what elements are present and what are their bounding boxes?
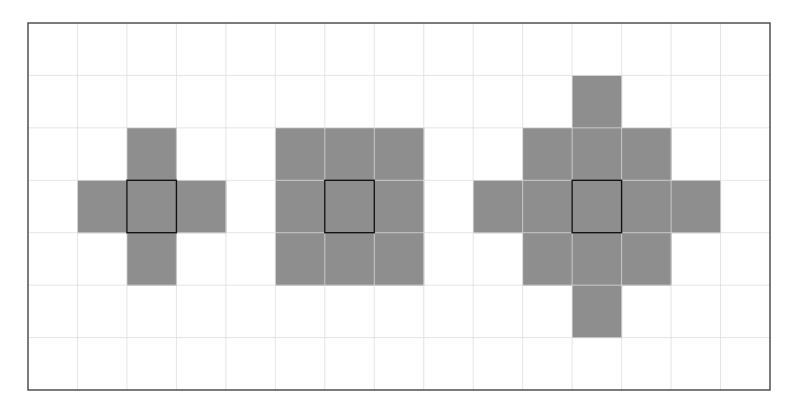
- filled-cell: [127, 180, 177, 233]
- filled-cell: [622, 128, 672, 181]
- filled-cell: [572, 128, 622, 181]
- filled-cell: [523, 233, 573, 286]
- filled-cell: [523, 180, 573, 233]
- filled-cell: [572, 285, 622, 338]
- filled-cell: [473, 180, 523, 233]
- filled-cell: [374, 128, 424, 181]
- filled-cell: [622, 180, 672, 233]
- filled-cell: [374, 180, 424, 233]
- filled-cell: [523, 128, 573, 181]
- filled-cell: [572, 180, 622, 233]
- filled-cell: [325, 180, 375, 233]
- filled-cell: [671, 180, 721, 233]
- filled-cell: [622, 233, 672, 286]
- filled-cell: [374, 233, 424, 286]
- filled-cell: [275, 233, 325, 286]
- filled-cell: [325, 233, 375, 286]
- square-neighborhood: [275, 128, 424, 286]
- filled-cell: [572, 75, 622, 128]
- filled-cell: [176, 180, 226, 233]
- filled-cell: [325, 128, 375, 181]
- filled-cell: [275, 180, 325, 233]
- filled-cell: [127, 233, 177, 286]
- filled-cell: [572, 233, 622, 286]
- neighborhood-diagram: [0, 0, 797, 412]
- filled-cell: [275, 128, 325, 181]
- filled-cell: [127, 128, 177, 181]
- filled-cell: [77, 180, 127, 233]
